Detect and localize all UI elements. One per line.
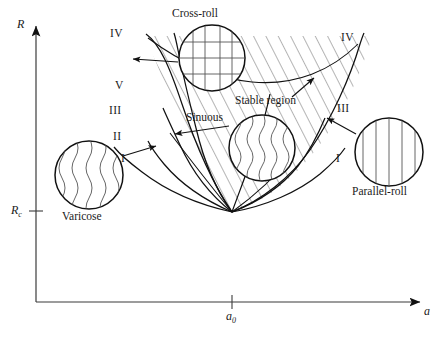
y-axis-label: R xyxy=(17,18,24,30)
parallel-roll-inset xyxy=(355,116,423,188)
cross-roll-inset xyxy=(179,25,245,91)
diagram-svg xyxy=(0,0,440,340)
curve-label-IV-left: IV xyxy=(110,28,123,40)
y-tick-label: Rc xyxy=(11,204,22,219)
curve-label-V-left: V xyxy=(115,80,124,92)
curve-label-III-right: III xyxy=(337,103,349,115)
varicose-inset xyxy=(55,138,123,218)
arrow-varicose-II xyxy=(123,146,156,156)
x-axis-label: a xyxy=(424,305,430,317)
figure-canvas: R a Rc a0 Cross-roll Stable region Sinuo… xyxy=(0,0,440,340)
label-cross-roll: Cross-roll xyxy=(172,8,218,20)
label-stable-region: Stable region xyxy=(235,95,296,107)
x-tick-label: a0 xyxy=(226,310,236,325)
curve-label-I-right: I xyxy=(336,153,340,165)
label-parallel-roll: Parallel-roll xyxy=(352,186,407,198)
label-sinuous: Sinuous xyxy=(186,112,223,124)
label-varicose: Varicose xyxy=(62,211,102,223)
curve-label-I-left: I xyxy=(121,153,125,165)
curve-label-II-left: II xyxy=(113,131,121,143)
curve-label-IV-right: IV xyxy=(341,32,354,44)
curve-label-III-left: III xyxy=(109,105,121,117)
